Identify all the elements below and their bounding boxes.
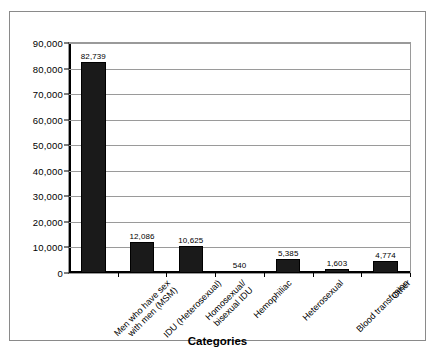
- bar-value-label: 10,625: [178, 236, 203, 245]
- y-tick-mark: [64, 43, 69, 44]
- x-tick-mark: [166, 273, 167, 277]
- bar-value-label: 5,385: [278, 249, 299, 258]
- x-tick-mark: [118, 273, 119, 277]
- x-tick-mark: [215, 273, 216, 277]
- y-tick-label: 0: [58, 268, 63, 279]
- x-tick-mark: [264, 273, 265, 277]
- bar: 540: [227, 271, 251, 273]
- bar-value-label: 12,086: [130, 232, 155, 241]
- bar: 4,774: [373, 261, 397, 273]
- bar-value-label: 1,603: [327, 259, 348, 268]
- y-axis-line: [69, 43, 71, 273]
- gridline: [69, 222, 410, 223]
- y-tick-mark: [64, 119, 69, 120]
- bar-value-label: 540: [233, 261, 247, 270]
- gridline: [69, 69, 410, 70]
- x-category-label: Other: [389, 278, 412, 301]
- y-tick-label: 70,000: [33, 89, 63, 100]
- screenshot-root: 010,00020,00030,00040,00050,00060,00070,…: [0, 0, 435, 364]
- y-tick-mark: [64, 221, 69, 222]
- gridline: [69, 120, 410, 121]
- y-tick-label: 50,000: [33, 140, 63, 151]
- figure-frame: 010,00020,00030,00040,00050,00060,00070,…: [9, 11, 426, 341]
- y-tick-mark: [64, 145, 69, 146]
- bar: 1,603: [325, 269, 349, 273]
- x-tick-mark: [361, 273, 362, 277]
- y-tick-label: 90,000: [33, 38, 63, 49]
- y-tick-mark: [64, 94, 69, 95]
- y-tick-label: 30,000: [33, 191, 63, 202]
- x-category-label: Hemophiliac: [251, 278, 293, 320]
- x-axis-title: Categories: [10, 335, 425, 347]
- y-tick-mark: [64, 247, 69, 248]
- gridline: [69, 43, 410, 44]
- bar: 5,385: [276, 259, 300, 273]
- gridline: [69, 94, 410, 95]
- y-tick-label: 40,000: [33, 165, 63, 176]
- y-tick-label: 10,000: [33, 242, 63, 253]
- x-tick-mark: [410, 273, 411, 277]
- bar-value-label: 4,774: [375, 251, 396, 260]
- y-tick-mark: [64, 196, 69, 197]
- y-tick-mark: [64, 170, 69, 171]
- figure-caption: [9, 348, 426, 364]
- y-tick-mark: [64, 273, 69, 274]
- plot-area: 010,00020,00030,00040,00050,00060,00070,…: [68, 42, 411, 274]
- bar: 12,086: [130, 242, 154, 273]
- bar: 82,739: [81, 62, 105, 273]
- gridline: [69, 196, 410, 197]
- bar-value-label: 82,739: [81, 52, 106, 61]
- x-tick-mark: [313, 273, 314, 277]
- bar: 10,625: [179, 246, 203, 273]
- y-tick-label: 60,000: [33, 114, 63, 125]
- gridline: [69, 145, 410, 146]
- y-tick-mark: [64, 68, 69, 69]
- y-tick-label: 80,000: [33, 63, 63, 74]
- gridline: [69, 247, 410, 248]
- x-category-label: Heterosexual: [301, 278, 346, 323]
- gridline: [69, 171, 410, 172]
- y-tick-label: 20,000: [33, 216, 63, 227]
